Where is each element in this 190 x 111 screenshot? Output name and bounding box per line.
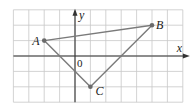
point-label-B: B: [156, 18, 164, 32]
coordinate-plane-diagram: x y 0 ABC: [0, 0, 190, 111]
origin-label: 0: [77, 57, 83, 69]
point-B: [150, 23, 155, 28]
x-axis-label: x: [176, 41, 183, 55]
segment-CA: [44, 41, 90, 87]
point-label-A: A: [31, 34, 40, 48]
y-axis-label: y: [78, 8, 85, 22]
point-C: [88, 85, 93, 90]
segment-AB: [44, 25, 152, 40]
vertices: ABC: [31, 18, 164, 98]
x-axis-arrow-icon: [183, 54, 190, 59]
point-label-C: C: [95, 84, 104, 98]
point-A: [42, 38, 47, 43]
